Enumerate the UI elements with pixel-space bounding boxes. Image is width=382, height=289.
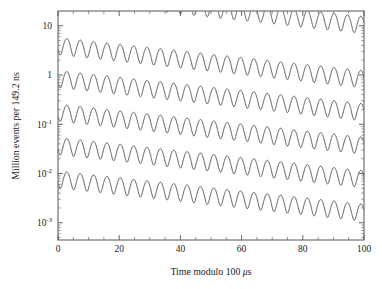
x-tick-label: 100: [357, 244, 372, 254]
x-axis-tick-labels: 020406080100: [56, 244, 372, 254]
x-tick-label: 20: [114, 244, 124, 254]
y-axis-title: Million events per 149.2 ns: [10, 72, 21, 180]
data-series-group: [58, 0, 364, 220]
data-series-6: [58, 172, 364, 220]
data-series-4: [58, 105, 364, 153]
x-tick-label: 80: [298, 244, 308, 254]
x-axis-title: Time modulo 100 μs: [170, 266, 251, 277]
y-tick-label: 1: [47, 70, 52, 80]
data-series-5: [58, 139, 364, 187]
x-tick-label: 0: [56, 244, 61, 254]
y-tick-label: 10-3: [37, 216, 53, 228]
y-axis-tick-labels: 10110-110-210-3: [37, 21, 53, 228]
data-series-1: [151, 0, 364, 33]
x-tick-label: 60: [237, 244, 247, 254]
data-series-2: [58, 39, 364, 87]
y-axis-ticks: [58, 26, 364, 238]
figure-panel: 020406080100 10110-110-210-3 Time modulo…: [0, 0, 382, 289]
x-tick-label: 40: [176, 244, 186, 254]
wiggle-plot-svg: 020406080100 10110-110-210-3 Time modulo…: [0, 0, 382, 289]
y-tick-label: 10-2: [37, 167, 52, 179]
data-series-3: [58, 72, 364, 120]
y-tick-label: 10-1: [37, 118, 52, 130]
y-tick-label: 10: [43, 21, 53, 31]
